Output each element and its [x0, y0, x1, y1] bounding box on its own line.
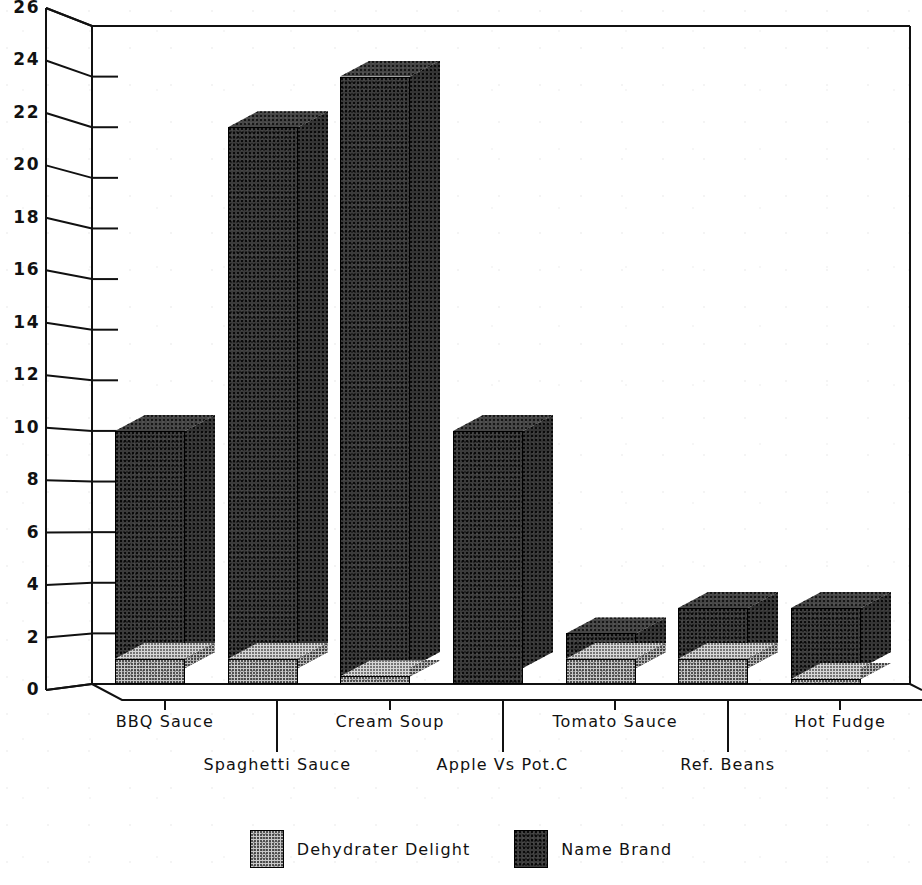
bar-name-brand-2	[340, 61, 440, 684]
legend-entry-1: Name Brand	[514, 830, 672, 868]
bar-dehydrater-delight-4	[566, 643, 666, 684]
bar-name-brand-3	[453, 415, 553, 684]
x-axis-tick-label-1: Spaghetti Sauce	[204, 755, 352, 774]
bar-front-face	[340, 676, 410, 684]
bar-side-face	[861, 663, 891, 684]
x-axis-tick-label-6: Hot Fudge	[794, 712, 886, 731]
x-axis-leader-line-1	[276, 700, 278, 752]
bar-dehydrater-delight-0	[115, 643, 215, 684]
x-axis-tick-label-2: Cream Soup	[335, 712, 444, 731]
x-axis-leader-line-6	[839, 700, 841, 710]
bar-front-face	[791, 679, 861, 684]
bar-side-face	[523, 415, 553, 684]
x-axis-tick-label-3: Apple Vs Pot.C	[437, 755, 569, 774]
x-axis-leader-line-4	[614, 700, 616, 710]
bar-front-face	[566, 659, 636, 684]
bar-front-face	[228, 127, 298, 684]
bar-name-brand-1	[228, 111, 328, 684]
legend-swatch-dark	[514, 830, 548, 868]
legend-label: Dehydrater Delight	[297, 840, 471, 859]
bar-front-face	[678, 659, 748, 684]
x-axis-tick-label-0: BBQ Sauce	[116, 712, 214, 731]
bar-side-face	[298, 111, 328, 684]
bar-front-face	[453, 431, 523, 684]
bar-front-face	[228, 659, 298, 684]
x-axis-leader-line-5	[727, 700, 729, 752]
bar-dehydrater-delight-5	[678, 643, 778, 684]
x-axis-leader-line-0	[164, 700, 166, 710]
x-axis-tick-label-5: Ref. Beans	[680, 755, 775, 774]
legend-label: Name Brand	[561, 840, 672, 859]
bar-front-face	[340, 77, 410, 684]
legend-swatch-light	[250, 830, 284, 868]
bar-side-face	[410, 61, 440, 684]
bar-dehydrater-delight-2	[340, 660, 440, 684]
x-axis-tick-label-4: Tomato Sauce	[552, 712, 677, 731]
x-axis-leader-line-2	[389, 700, 391, 710]
bar-chart: 02468101214161820222426 BBQ SauceSpaghet…	[0, 0, 922, 885]
x-axis-leader-line-3	[502, 700, 504, 752]
bar-dehydrater-delight-1	[228, 643, 328, 684]
legend-entry-0: Dehydrater Delight	[250, 830, 471, 868]
bar-dehydrater-delight-6	[791, 663, 891, 684]
chart-legend: Dehydrater DelightName Brand	[0, 830, 922, 868]
bar-front-face	[115, 659, 185, 684]
